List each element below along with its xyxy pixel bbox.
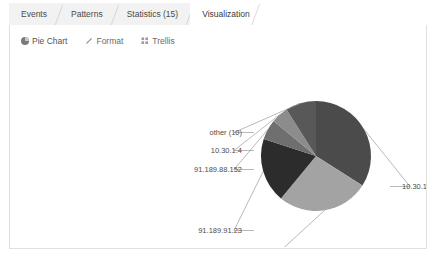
- format-button[interactable]: Format: [85, 37, 123, 46]
- trellis-button-label: Trellis: [152, 37, 174, 46]
- visualization-panel: Events Patterns Statistics (15) Visualiz…: [0, 0, 436, 258]
- tab-visualization-label: Visualization: [202, 10, 250, 19]
- pie-leader-line: [234, 210, 325, 247]
- trellis-button[interactable]: Trellis: [141, 37, 174, 46]
- tab-active-fill: [262, 3, 427, 26]
- pie-chart-svg: 10.30.1.310.20.1.291.189.91.2391.189.88.…: [10, 55, 426, 247]
- pie-label: 10.30.1.3: [402, 182, 426, 191]
- pie-chart: 10.30.1.310.20.1.291.189.91.2391.189.88.…: [10, 55, 426, 247]
- pie-label: other (10): [209, 128, 242, 137]
- pie-chart-button-label: Pie Chart: [32, 37, 67, 46]
- tab-bar: Events Patterns Statistics (15) Visualiz…: [9, 3, 427, 26]
- pie-label: 10.30.1.4: [211, 146, 242, 155]
- pie-label: 91.189.88.152: [194, 165, 242, 174]
- tab-list: Events Patterns Statistics (15) Visualiz…: [9, 3, 262, 26]
- pie-chart-button[interactable]: Pie Chart: [21, 37, 67, 46]
- pie-leader-line: [364, 130, 410, 187]
- tab-events-label: Events: [21, 10, 47, 19]
- pie-label: 91.189.91.23: [198, 226, 242, 235]
- grid-icon: [141, 37, 149, 45]
- tab-patterns-label: Patterns: [71, 10, 103, 19]
- chart-toolbar: Pie Chart Format: [21, 37, 175, 46]
- pencil-icon: [85, 37, 93, 45]
- pie-chart-icon: [21, 37, 29, 45]
- tab-statistics-label: Statistics (15): [127, 10, 179, 19]
- content-panel: Pie Chart Format: [9, 25, 427, 249]
- pie-leader-line: [234, 171, 263, 230]
- tab-statistics[interactable]: Statistics (15): [115, 3, 191, 26]
- tab-events[interactable]: Events: [9, 3, 59, 26]
- format-button-label: Format: [96, 37, 123, 46]
- tab-patterns[interactable]: Patterns: [59, 3, 115, 26]
- pie-slices[interactable]: [261, 101, 371, 211]
